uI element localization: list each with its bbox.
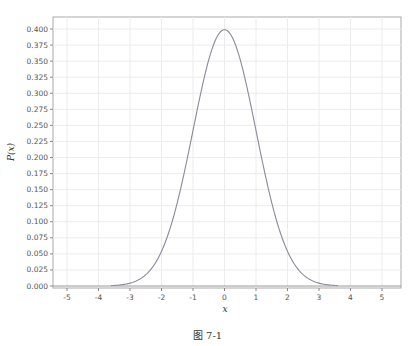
y-tick-label: 0.150 — [27, 185, 49, 194]
x-tick-label: -4 — [95, 293, 103, 302]
y-tick-label: 0.275 — [27, 105, 49, 114]
x-tick-label: 0 — [222, 293, 227, 302]
x-tick-label: 1 — [254, 293, 259, 302]
y-tick-label: 0.050 — [27, 249, 49, 258]
y-axis-label: P(x) — [6, 142, 16, 162]
x-tick-label: -3 — [126, 293, 134, 302]
y-tick-label: 0.100 — [27, 217, 49, 226]
y-tick-label: 0.200 — [27, 153, 49, 162]
y-tick-label: 0.250 — [27, 121, 49, 130]
y-tick-label: 0.400 — [27, 25, 49, 34]
y-tick-label: 0.175 — [27, 169, 49, 178]
normal-distribution-chart: 0.0000.0250.0500.0750.1000.1250.1500.175… — [0, 0, 415, 320]
x-tick-label: -1 — [189, 293, 197, 302]
y-tick-label: 0.225 — [27, 137, 49, 146]
y-tick-label: 0.125 — [27, 201, 49, 210]
y-tick-label: 0.000 — [27, 282, 49, 291]
y-tick-label: 0.025 — [27, 265, 49, 274]
y-tick-label: 0.075 — [27, 233, 49, 242]
x-axis-ticks: -5-4-3-2-1012345 — [63, 288, 384, 302]
y-axis-ticks: 0.0000.0250.0500.0750.1000.1250.1500.175… — [27, 25, 53, 291]
x-tick-label: 2 — [285, 293, 290, 302]
y-tick-label: 0.300 — [27, 89, 49, 98]
x-tick-label: -2 — [158, 293, 166, 302]
y-tick-label: 0.325 — [27, 73, 49, 82]
y-tick-label: 0.350 — [27, 57, 49, 66]
y-tick-label: 0.375 — [27, 41, 49, 50]
figure-caption: 图 7-1 — [0, 327, 415, 342]
x-tick-label: 4 — [348, 293, 353, 302]
x-tick-label: 3 — [317, 293, 322, 302]
x-tick-label: -5 — [63, 293, 71, 302]
x-tick-label: 5 — [380, 293, 385, 302]
plot-area — [53, 17, 401, 288]
x-axis-label: x — [222, 304, 227, 314]
